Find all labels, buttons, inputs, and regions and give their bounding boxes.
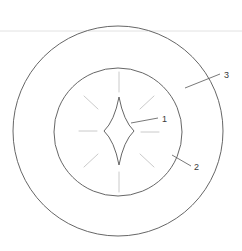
callout-3-label: 3 (224, 70, 229, 80)
figure-container: 123 (0, 0, 242, 251)
callout-2-label: 2 (194, 162, 199, 172)
callout-1-label: 1 (162, 114, 167, 124)
diagram-background (0, 0, 242, 251)
technical-diagram: 123 (0, 0, 242, 251)
